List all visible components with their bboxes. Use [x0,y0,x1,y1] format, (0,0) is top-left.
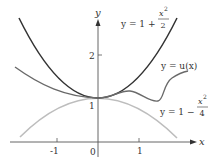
label-lower-bound: y = 1 − x 2 4 [159,93,208,118]
curve-u [15,67,188,101]
svg-text:y = 1 −: y = 1 − [159,107,194,117]
label-u: y = u(x) [160,61,197,71]
label-lower-lhs: y = 1 − [159,107,194,117]
tick-label-y-1: 1 [89,101,95,111]
x-axis-arrow-icon [190,140,197,145]
label-upper-lhs: y = 1 + [120,19,155,29]
curve-lower-bound [20,98,177,138]
label-lower-den: 4 [200,109,205,118]
label-upper-exp: 2 [164,5,168,12]
svg-text:4: 4 [200,109,205,118]
svg-text:2: 2 [161,21,166,30]
x-axis-label: x [199,136,205,147]
label-upper-bound: y = 1 + x 2 2 [120,5,169,30]
y-axis-label: y [94,7,101,18]
svg-text:y = u(x): y = u(x) [160,61,197,71]
tick-label-x-1: 1 [137,146,143,156]
label-upper-den: 2 [161,21,166,30]
figure: x y -1 0 1 1 2 y = 1 + x 2 2 y = u(x) y … [0,0,215,166]
tick-label-x-0: 0 [90,147,96,157]
axes [10,19,197,157]
label-u-text: y = u(x) [160,61,197,71]
tick-label-x-neg1: -1 [50,146,59,156]
svg-text:y = 1 +: y = 1 + [120,19,155,29]
tick-label-y-2: 2 [89,51,95,61]
svg-text:2: 2 [203,93,207,100]
label-lower-exp: 2 [203,93,207,100]
y-axis-arrow-icon [96,19,101,26]
svg-text:2: 2 [164,5,168,12]
